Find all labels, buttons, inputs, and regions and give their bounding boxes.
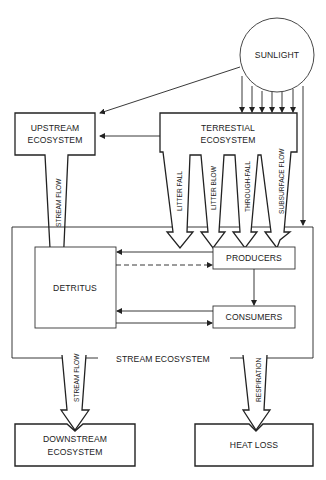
terrestrial-label-line2: ECOSYSTEM [201,135,256,145]
producers-label: PRODUCERS [226,253,282,263]
detritus-label: DETRITUS [53,283,97,293]
heat-loss-label: HEAT LOSS [230,440,279,450]
producers-node: PRODUCERS [213,247,295,269]
stream-ecosystem-diagram: SUNLIGHT UPSTREAM ECOSYSTEM STREAM FLOW … [0,0,326,480]
respiration-arrow: RESPIRATION [243,355,270,430]
upstream-label-line1: UPSTREAM [31,123,80,133]
upstream-label-line2: ECOSYSTEM [28,135,83,145]
sunlight-label: SUNLIGHT [255,50,300,60]
litter-fall-label: LITTER FALL [176,171,183,211]
detritus-node: DETRITUS [35,247,116,328]
litter-blow-label: LITTER BLOW [210,165,217,210]
upstream-stream-flow-label: STREAM FLOW [55,178,62,227]
consumers-label: CONSUMERS [226,312,283,322]
terrestrial-label-line1: TERRESTIAL [201,123,255,133]
subsurface-flow-label: SUBSURFACE FLOW [278,148,285,214]
sunlight-to-upstream-arrow [100,67,240,113]
downstream-stream-flow-arrow: STREAM FLOW [61,353,89,430]
downstream-stream-flow-label: STREAM FLOW [73,353,80,402]
respiration-label: RESPIRATION [255,358,262,402]
through-fall-label: THROUGH-FALL [244,161,251,212]
downstream-label-line2: ECOSYSTEM [48,447,103,457]
sunlight-node: SUNLIGHT [240,18,314,92]
terrestrial-ecosystem-node: TERRESTIAL ECOSYSTEM LITTER FALL LITTER … [160,113,297,248]
downstream-label-line1: DOWNSTREAM [43,434,107,444]
heat-loss-node: HEAT LOSS [195,424,313,466]
consumers-node: CONSUMERS [213,306,295,328]
stream-ecosystem-label: STREAM ECOSYSTEM [116,354,210,364]
downstream-ecosystem-node: DOWNSTREAM ECOSYSTEM [15,424,135,466]
